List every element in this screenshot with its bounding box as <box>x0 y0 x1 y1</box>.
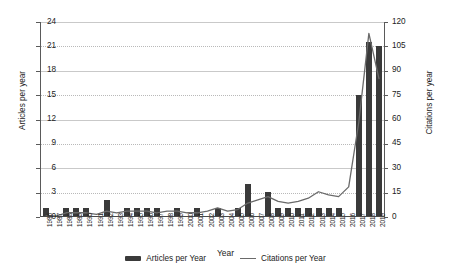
x-tick-slot-2001: 2001 <box>192 219 202 247</box>
x-tick-slot-1987: 1987 <box>51 219 61 247</box>
x-tick-slot-1992: 1992 <box>102 219 112 247</box>
bar-2019 <box>376 46 382 216</box>
y-axis-right-tickmark <box>384 217 388 218</box>
y-axis-right-tickmark <box>384 120 388 121</box>
bar-2017 <box>356 95 362 216</box>
bar-slot-2002 <box>203 22 213 216</box>
x-axis-tick-2019: 2019 <box>379 213 386 227</box>
x-tick-slot-2013: 2013 <box>314 219 324 247</box>
bar-slot-2013 <box>314 22 324 216</box>
y-axis-left-tick-12: 12 <box>16 114 56 123</box>
legend-line-swatch-icon <box>240 258 256 259</box>
y-axis-left-tick-24: 24 <box>16 17 56 26</box>
x-tick-slot-2019: 2019 <box>374 219 384 247</box>
y-axis-right-tick-0: 0 <box>392 212 432 221</box>
bar-slot-1988 <box>61 22 71 216</box>
citation-chart-figure: Articles per year Citations per year 198… <box>0 0 451 274</box>
y-axis-left-tickmark <box>36 193 40 194</box>
bar-2006 <box>245 184 251 216</box>
x-tick-slot-2017: 2017 <box>354 219 364 247</box>
y-axis-left-tick-15: 15 <box>16 90 56 99</box>
y-axis-right-tick-105: 105 <box>392 41 432 50</box>
x-tick-slot-2018: 2018 <box>364 219 374 247</box>
x-tick-slot-2009: 2009 <box>273 219 283 247</box>
legend-item-citations: Citations per Year <box>240 254 326 263</box>
x-tick-slot-1990: 1990 <box>81 219 91 247</box>
bar-slot-1992 <box>102 22 112 216</box>
bar-slot-1990 <box>81 22 91 216</box>
y-axis-right-tick-15: 15 <box>392 187 432 196</box>
chart-legend: Articles per Year Citations per Year <box>0 254 451 263</box>
y-axis-left-tick-3: 3 <box>16 187 56 196</box>
y-axis-left-tickmark <box>36 46 40 47</box>
y-axis-left-tick-21: 21 <box>16 41 56 50</box>
y-axis-right-tick-60: 60 <box>392 114 432 123</box>
bar-slot-2015 <box>334 22 344 216</box>
y-axis-left-tick-18: 18 <box>16 65 56 74</box>
bar-slot-2018 <box>364 22 374 216</box>
x-tick-slot-2015: 2015 <box>334 219 344 247</box>
bar-slot-1993 <box>112 22 122 216</box>
x-tick-slot-2014: 2014 <box>324 219 334 247</box>
legend-bar-swatch-icon <box>125 256 141 261</box>
y-axis-left-tickmark <box>36 71 40 72</box>
bar-slot-1994 <box>122 22 132 216</box>
y-axis-left-tickmark <box>36 95 40 96</box>
x-tick-slot-1989: 1989 <box>71 219 81 247</box>
bar-slot-2007 <box>253 22 263 216</box>
bar-slot-1995 <box>132 22 142 216</box>
y-axis-left-tickmark <box>36 217 40 218</box>
legend-label-citations: Citations per Year <box>261 254 326 263</box>
y-axis-left-tick-9: 9 <box>16 138 56 147</box>
x-tick-slot-2016: 2016 <box>344 219 354 247</box>
x-tick-slot-1998: 1998 <box>162 219 172 247</box>
bar-series-layer <box>41 22 384 216</box>
x-tick-slot-2006: 2006 <box>243 219 253 247</box>
y-axis-left-tickmark <box>36 168 40 169</box>
y-axis-right-tickmark <box>384 46 388 47</box>
x-axis-tick-labels: 1986198719881989199019911992199319941995… <box>41 219 384 247</box>
bar-slot-2005 <box>233 22 243 216</box>
bar-slot-2008 <box>263 22 273 216</box>
x-tick-slot-2012: 2012 <box>303 219 313 247</box>
y-axis-left-tick-0: 0 <box>16 212 56 221</box>
y-axis-right-tick-30: 30 <box>392 163 432 172</box>
bar-slot-2009 <box>273 22 283 216</box>
x-tick-slot-2011: 2011 <box>293 219 303 247</box>
bar-slot-2003 <box>213 22 223 216</box>
x-tick-slot-1995: 1995 <box>132 219 142 247</box>
bar-slot-1998 <box>162 22 172 216</box>
y-axis-left-tickmark <box>36 22 40 23</box>
bar-slot-2010 <box>283 22 293 216</box>
x-tick-slot-2010: 2010 <box>283 219 293 247</box>
bar-slot-1999 <box>172 22 182 216</box>
x-tick-slot-1994: 1994 <box>122 219 132 247</box>
bar-2018 <box>366 42 372 216</box>
y-axis-right-tickmark <box>384 95 388 96</box>
legend-item-articles: Articles per Year <box>125 254 206 263</box>
x-tick-slot-1991: 1991 <box>91 219 101 247</box>
bar-slot-2017 <box>354 22 364 216</box>
x-tick-slot-1996: 1996 <box>142 219 152 247</box>
x-tick-slot-2002: 2002 <box>203 219 213 247</box>
bar-slot-1997 <box>152 22 162 216</box>
y-axis-right-tickmark <box>384 193 388 194</box>
y-axis-right-tick-45: 45 <box>392 138 432 147</box>
bar-slot-2019 <box>374 22 384 216</box>
bar-slot-1989 <box>71 22 81 216</box>
y-axis-right-tickmark <box>384 71 388 72</box>
x-tick-slot-2000: 2000 <box>182 219 192 247</box>
x-tick-slot-1993: 1993 <box>112 219 122 247</box>
y-axis-right-tickmark <box>384 22 388 23</box>
bar-slot-2014 <box>324 22 334 216</box>
y-axis-right-tick-90: 90 <box>392 65 432 74</box>
bar-slot-1991 <box>91 22 101 216</box>
y-axis-left-tickmark <box>36 120 40 121</box>
y-axis-right-tick-75: 75 <box>392 90 432 99</box>
y-axis-right-tick-120: 120 <box>392 17 432 26</box>
bar-slot-2006 <box>243 22 253 216</box>
bar-slot-2016 <box>344 22 354 216</box>
legend-label-articles: Articles per Year <box>146 254 206 263</box>
x-tick-slot-2004: 2004 <box>223 219 233 247</box>
bar-slot-2001 <box>192 22 202 216</box>
